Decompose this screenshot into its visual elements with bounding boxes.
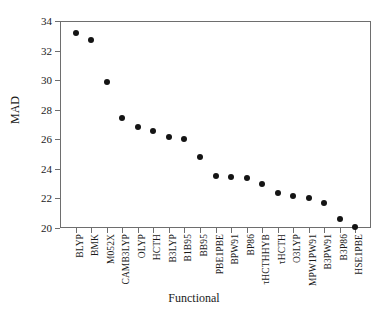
- y-tick-mark: [55, 169, 60, 170]
- x-tick-label: HSE1PBE: [354, 234, 364, 275]
- x-tick-label: O3LYP: [292, 234, 302, 263]
- data-point: [213, 173, 219, 179]
- data-point: [228, 174, 234, 180]
- data-point: [119, 115, 125, 121]
- y-tick-label: 22: [41, 192, 52, 204]
- x-tick-mark: [184, 228, 185, 233]
- chart-figure: MAD 2022242628303234 BLYPBMKM052XCAMB3LY…: [0, 0, 388, 316]
- x-tick-label: B3LYP: [168, 234, 178, 263]
- data-point: [135, 124, 141, 130]
- data-point: [166, 134, 172, 140]
- y-tick-mark: [55, 51, 60, 52]
- x-tick-label: BP86: [246, 234, 256, 256]
- y-tick-label: 26: [41, 133, 52, 145]
- data-point: [321, 200, 327, 206]
- y-tick-mark: [55, 80, 60, 81]
- y-tick-mark: [55, 21, 60, 22]
- x-tick-label: τHCTH: [277, 234, 287, 264]
- x-tick-label: CAMB3LYP: [121, 234, 131, 285]
- x-tick-mark: [324, 228, 325, 233]
- x-tick-label: M052X: [106, 234, 116, 264]
- y-axis-label: MAD: [8, 96, 23, 124]
- y-tick-label: 32: [41, 45, 52, 57]
- x-tick-label: BLYP: [75, 234, 85, 258]
- x-tick-label: B3P86: [339, 234, 349, 260]
- data-point: [197, 154, 203, 160]
- y-tick-label: 20: [41, 222, 52, 234]
- y-tick-label: 30: [41, 74, 52, 86]
- x-tick-label: B3PW91: [323, 234, 333, 269]
- x-tick-mark: [247, 228, 248, 233]
- y-tick-mark: [55, 139, 60, 140]
- y-tick-mark: [55, 110, 60, 111]
- x-tick-mark: [107, 228, 108, 233]
- plot-area: [60, 21, 371, 228]
- y-tick-label: 28: [41, 104, 52, 116]
- x-tick-mark: [91, 228, 92, 233]
- data-point: [181, 136, 187, 142]
- data-point: [275, 190, 281, 196]
- y-tick-mark: [55, 228, 60, 229]
- x-tick-mark: [153, 228, 154, 233]
- x-tick-label: B1B95: [183, 234, 193, 261]
- x-tick-mark: [340, 228, 341, 233]
- x-tick-label: τHCTHHYB: [261, 234, 271, 285]
- x-tick-mark: [216, 228, 217, 233]
- data-point: [337, 216, 343, 222]
- data-point: [73, 30, 79, 36]
- x-tick-mark: [200, 228, 201, 233]
- x-tick-label: BMK: [90, 234, 100, 256]
- x-axis-label: Functional: [0, 291, 388, 306]
- data-point: [150, 128, 156, 134]
- x-tick-mark: [309, 228, 310, 233]
- data-point: [88, 37, 94, 43]
- x-tick-mark: [122, 228, 123, 233]
- data-point: [352, 224, 358, 230]
- y-tick-mark: [55, 198, 60, 199]
- x-tick-label: BB95: [199, 234, 209, 257]
- data-point: [104, 79, 110, 85]
- x-tick-mark: [138, 228, 139, 233]
- data-point: [290, 193, 296, 199]
- data-point: [306, 195, 312, 201]
- x-tick-mark: [76, 228, 77, 233]
- y-tick-label: 34: [41, 15, 52, 27]
- x-tick-mark: [293, 228, 294, 233]
- x-tick-mark: [262, 228, 263, 233]
- y-tick-label: 24: [41, 163, 52, 175]
- x-tick-label: BPW91: [230, 234, 240, 265]
- x-tick-mark: [278, 228, 279, 233]
- x-tick-label: PBE1PBE: [215, 234, 225, 274]
- x-tick-label: MPW1PW91: [308, 234, 318, 286]
- data-point: [244, 175, 250, 181]
- x-tick-label: HCTH: [152, 234, 162, 260]
- x-tick-label: OLYP: [137, 234, 147, 258]
- x-tick-mark: [169, 228, 170, 233]
- data-point: [259, 181, 265, 187]
- x-tick-mark: [231, 228, 232, 233]
